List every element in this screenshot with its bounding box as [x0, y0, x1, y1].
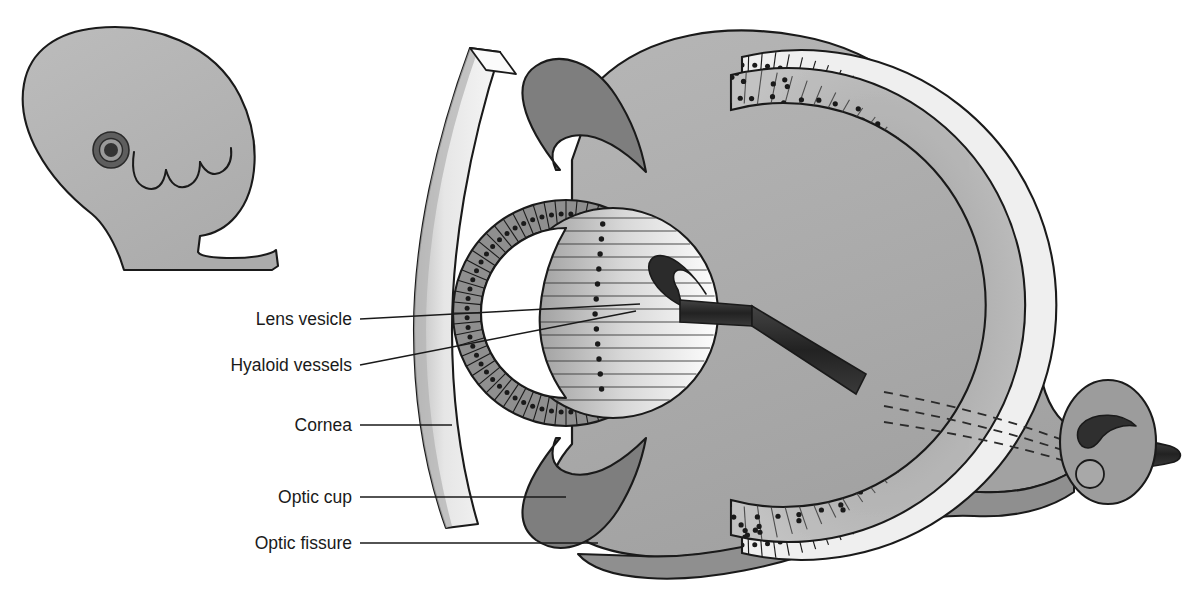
label-cornea: Cornea [295, 415, 353, 435]
label-lens-vesicle: Lens vesicle [256, 309, 352, 329]
optic-stalk-cut-face [1060, 380, 1156, 504]
label-optic-fissure: Optic fissure [255, 533, 352, 553]
label-optic-cup: Optic cup [278, 487, 352, 507]
optic-stalk-notch [1076, 460, 1104, 488]
embryo-head-outline [23, 27, 278, 270]
eye-development-diagram: Lens vesicleHyaloid vesselsCorneaOptic c… [0, 0, 1199, 602]
lens-vesicle [453, 200, 718, 426]
embryo-eye-pupil [104, 143, 118, 157]
label-hyaloid-vessels: Hyaloid vessels [230, 355, 352, 375]
embryo-inset [23, 27, 278, 270]
figure-canvas: Lens vesicleHyaloid vesselsCorneaOptic c… [0, 0, 1199, 602]
optic-stalk-end [1060, 380, 1156, 504]
